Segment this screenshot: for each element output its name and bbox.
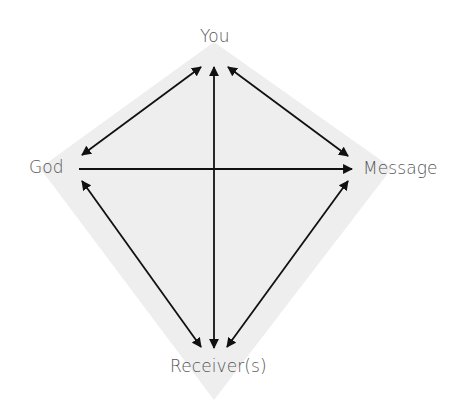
node-label-message: Message	[363, 158, 438, 178]
node-label-receivers: Receiver(s)	[170, 356, 267, 376]
node-label-you: You	[200, 26, 230, 46]
node-label-god: God	[29, 157, 64, 177]
kite-diagram: You God Message Receiver(s)	[0, 0, 458, 402]
kite-background	[40, 42, 392, 400]
diagram-canvas	[0, 0, 458, 402]
